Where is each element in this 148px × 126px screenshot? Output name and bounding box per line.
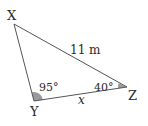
angle-label-y: 95° (39, 81, 59, 94)
vertex-label-x: X (7, 8, 17, 23)
vertex-label-y: Y (29, 104, 39, 119)
side-label-yz: x (78, 93, 85, 107)
side-label-xz: 11 m (70, 43, 101, 57)
vertex-label-z: Z (128, 88, 137, 103)
triangle-diagram: X Y Z 11 m x 95° 40° (0, 0, 148, 126)
side-xy (14, 24, 34, 101)
angle-label-z: 40° (94, 81, 114, 94)
